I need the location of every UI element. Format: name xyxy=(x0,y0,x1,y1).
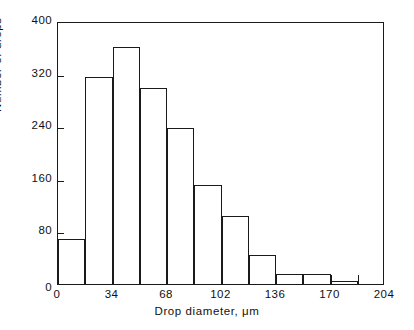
y-tick-label: 240 xyxy=(32,119,52,131)
x-tick-label: 204 xyxy=(364,288,404,300)
x-tick-mark xyxy=(358,275,359,284)
histogram-bar xyxy=(331,281,358,284)
bars-group xyxy=(58,23,383,284)
histogram-bar xyxy=(249,255,276,284)
x-tick-mark xyxy=(194,275,195,284)
x-tick-mark xyxy=(249,275,250,284)
y-tick-mark xyxy=(58,128,64,129)
y-tick-mark xyxy=(58,181,64,182)
x-tick-mark xyxy=(303,275,304,284)
histogram-bar xyxy=(222,216,249,284)
x-tick-label: 0 xyxy=(37,288,77,300)
x-tick-mark xyxy=(167,275,168,284)
x-tick-label: 34 xyxy=(92,288,132,300)
histogram-bar xyxy=(140,88,167,284)
y-tick-label: 400 xyxy=(32,14,52,26)
histogram-bar xyxy=(113,47,140,284)
x-tick-label: 68 xyxy=(146,288,186,300)
x-tick-mark xyxy=(140,275,141,284)
y-axis-title: Number of drops xyxy=(0,17,3,112)
x-tick-mark xyxy=(222,275,223,284)
histogram-bar xyxy=(85,77,112,284)
y-tick-mark xyxy=(58,76,64,77)
y-tick-label: 80 xyxy=(38,224,52,236)
histogram-bar xyxy=(303,274,330,284)
x-tick-mark xyxy=(276,275,277,284)
histogram-bar xyxy=(167,128,194,284)
histogram-bar xyxy=(276,274,303,284)
y-tick-label: 160 xyxy=(32,172,52,184)
y-tick-label: 320 xyxy=(32,67,52,79)
x-axis-title: Drop diameter, μm xyxy=(0,305,414,317)
histogram-bar xyxy=(58,239,85,284)
x-tick-mark xyxy=(113,275,114,284)
x-tick-label: 102 xyxy=(201,288,241,300)
plot-area xyxy=(57,22,384,285)
x-tick-mark xyxy=(85,275,86,284)
x-tick-mark xyxy=(331,275,332,284)
histogram-bar xyxy=(194,185,221,284)
y-tick-mark xyxy=(58,233,64,234)
histogram-figure: 080160240320400 03468102136170204 Drop d… xyxy=(0,0,414,330)
x-tick-label: 170 xyxy=(310,288,350,300)
x-tick-label: 136 xyxy=(255,288,295,300)
